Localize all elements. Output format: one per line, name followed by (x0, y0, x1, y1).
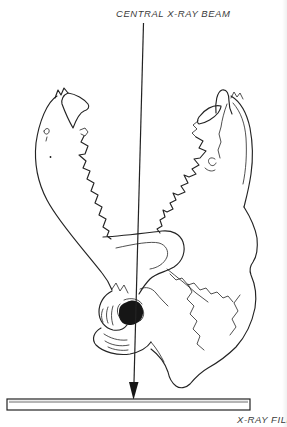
mandible-foramen-mark (44, 128, 49, 141)
upper-incisors-left (192, 121, 198, 137)
squamosal-line (167, 269, 208, 302)
condyle-hatching (102, 306, 114, 325)
beam-arrow (129, 23, 144, 400)
skull-dorsal-inner-contour (233, 103, 246, 184)
zygomatic-arch-inner (116, 242, 168, 269)
bulla-ridges (104, 334, 129, 350)
film-bar (7, 399, 250, 410)
beam-arrowhead (129, 382, 139, 400)
premaxilla-tip (216, 90, 232, 114)
tmj-right-spur (140, 288, 168, 306)
nasal-inner-contour (218, 104, 227, 158)
maxilla-tooth-row (157, 137, 206, 233)
beam-line (134, 23, 144, 382)
skull-base-line (151, 342, 164, 362)
palatine-curl-mark (208, 158, 216, 166)
tmj-spikes (112, 283, 128, 293)
mandible-canine-tooth (62, 93, 89, 128)
mandible-tooth-row (79, 136, 111, 239)
palatine-arc-mark (205, 168, 215, 171)
figure-canvas: CENTRAL X-RAY BEAM (0, 0, 287, 427)
mandible-drawing (35, 88, 112, 290)
suture-line-occipital (230, 295, 240, 335)
tmj-condyle-blob (119, 300, 143, 325)
mandible-premolar (80, 128, 88, 136)
skull-diagram-svg (0, 0, 287, 427)
suture-line-diagonal (170, 274, 233, 302)
film-rect (7, 399, 250, 410)
mandible-dot-detail (50, 156, 52, 158)
cranium-drawing (103, 90, 257, 388)
maxilla-canine-tooth (198, 106, 222, 124)
tmj-region-drawing (94, 283, 168, 362)
upper-incisors-right (231, 92, 243, 99)
skull-dorsal-outline (231, 96, 252, 207)
braincase-outline (151, 207, 257, 388)
suture-line-vertical (187, 284, 204, 350)
film-label: X-RAY FILM (237, 415, 287, 425)
